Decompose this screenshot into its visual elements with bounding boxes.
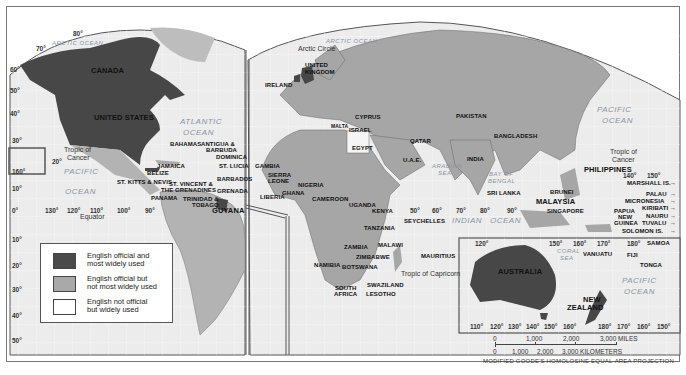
label-st-vincent-2: THE GRENADINES — [161, 187, 216, 193]
lon-110: 110° — [90, 207, 103, 214]
label-png-3: GUINEA — [614, 220, 638, 226]
label-brunei: BRUNEI — [550, 189, 574, 195]
inset-b-150: 150° — [544, 323, 557, 330]
tropic-cancer-east-label-2: Cancer — [612, 156, 635, 164]
pacific-west-label-2: OCEAN — [65, 187, 96, 196]
label-micronesia: MICRONESIA — [625, 198, 664, 204]
label-st-lucia: ST. LUCIA — [219, 163, 249, 169]
pacific-south-label-2: OCEAN — [624, 287, 655, 296]
lat-0: 0° — [12, 207, 18, 214]
label-egypt: EGYPT — [352, 145, 373, 151]
label-st-kitts: ST. KITTS & NEVIS — [117, 179, 172, 185]
lon-100: 100° — [117, 207, 130, 214]
label-uk-1: UNITED — [305, 62, 328, 68]
inset-b-160: 160° — [637, 323, 650, 330]
lon-90: 90° — [507, 207, 517, 214]
label-kenya: KENYA — [372, 208, 393, 214]
inset-b-110: 110° — [470, 323, 483, 330]
swatch-medium — [53, 276, 76, 292]
label-marshall: MARSHALL IS. — [627, 180, 671, 186]
label-fiji: FIJI — [627, 252, 638, 258]
label-ireland: IRELAND — [265, 82, 292, 88]
inset-lon-160: 160° — [573, 240, 586, 247]
label-india: INDIA — [467, 156, 484, 162]
map-legend: English official andmost widely used Eng… — [40, 243, 173, 323]
label-cameroon: CAMEROON — [312, 196, 348, 202]
lon-140: 140° — [623, 172, 636, 179]
lat-60: 60° — [10, 66, 20, 73]
scale-bar: 0 1,000 2,000 3,000 MILES 0 1,000 2,000 … — [490, 335, 680, 375]
label-guyana: GUYANA — [212, 208, 244, 214]
lon-50: 50° — [410, 207, 420, 214]
coral-sea-label-1: CORAL — [557, 248, 580, 254]
inset-b-180: 180° — [598, 323, 611, 330]
lat-s50: 50° — [12, 337, 22, 344]
arctic-ocean-east-label: ARCTIC OCEAN — [326, 38, 377, 44]
arrow-icon: → — [670, 191, 676, 197]
label-seychelles: SEYCHELLES — [404, 218, 445, 224]
lon-90: 90° — [145, 207, 155, 214]
inset-b-150: 150° — [657, 323, 670, 330]
indian-ocean-label-2: OCEAN — [490, 216, 521, 225]
lon-80: 80° — [480, 207, 490, 214]
lat-s10: 10° — [12, 236, 22, 243]
label-canada: CANADA — [91, 68, 124, 74]
label-malawi: MALAWI — [378, 242, 403, 248]
label-qatar: QATAR — [410, 138, 431, 144]
lat-s20: 20° — [12, 262, 22, 269]
tropic-cancer-east-label-1: Tropic of — [610, 148, 637, 156]
inset-b-170: 170° — [617, 323, 630, 330]
label-samoa: SAMOA — [647, 240, 670, 246]
arrow-icon: → — [670, 198, 676, 204]
label-grenada: GRENADA — [217, 188, 248, 194]
label-bahamas: BAHAMAS — [170, 141, 201, 147]
label-israel: ISRAEL — [349, 127, 372, 133]
label-jamaica: JAMAICA — [157, 163, 185, 169]
inset-lon-170: 170° — [597, 240, 610, 247]
tropic-cancer-west-label-2: Cancer — [67, 154, 90, 162]
projection-credit: MODIFIED GOODE'S HOMOLOSINE EQUAL-AREA P… — [483, 358, 674, 364]
label-cyprus: CYPRUS — [355, 114, 381, 120]
label-uk-2: KINGDOM — [305, 69, 335, 75]
label-vanuatu: VANUATU — [583, 251, 612, 257]
label-nigeria: NIGERIA — [298, 182, 324, 188]
label-belize: BELIZE — [147, 170, 169, 176]
label-usa: UNITED STATES — [94, 115, 154, 121]
tropic-cancer-west-label-1: Tropic of — [64, 146, 91, 154]
arrow-icon: → — [670, 220, 676, 226]
label-nauru: NAURU — [646, 213, 668, 219]
inset-lon-120: 120° — [475, 240, 488, 247]
lat-10: 10° — [12, 185, 22, 192]
label-namibia: NAMIBIA — [314, 262, 340, 268]
label-singapore: SINGAPORE — [547, 208, 584, 214]
label-palau: PALAU — [646, 191, 667, 197]
arctic-circle-label: Arctic Circle — [298, 45, 335, 53]
lat-s40: 40° — [12, 312, 22, 319]
inset-b-130: 130° — [508, 323, 521, 330]
label-antigua-2: BARBUDA — [206, 147, 237, 153]
label-barbados: BARBADOS — [217, 176, 252, 182]
swatch-dark — [53, 253, 76, 269]
label-uae: U.A.E. — [403, 157, 421, 163]
arctic-ocean-west-label: ARCTIC OCEAN — [52, 40, 103, 46]
inset-b-120: 120° — [490, 323, 503, 330]
lat-50: 50° — [10, 87, 20, 94]
arrow-icon: → — [670, 205, 676, 211]
label-zambia: ZAMBIA — [344, 244, 368, 250]
arabian-sea-label-2: SEA — [438, 170, 452, 176]
label-south-africa-2: AFRICA — [334, 291, 357, 297]
lon-70: 70° — [456, 207, 466, 214]
lat-s30: 30° — [12, 286, 22, 293]
label-bangladesh: BANGLADESH — [494, 133, 537, 139]
lat-40: 40° — [10, 110, 20, 117]
arrow-icon: → — [670, 180, 676, 186]
inset-lon-180: 180° — [627, 240, 640, 247]
label-lesotho: LESOTHO — [366, 291, 396, 297]
label-nz-2: ZEALAND — [567, 305, 604, 311]
bay-of-bengal-label-1: BAY OF — [489, 171, 513, 177]
pacific-west-label-1: PACIFIC — [64, 167, 98, 176]
lon-130: 130° — [45, 207, 58, 214]
coral-sea-label-2: SEA — [560, 255, 574, 261]
label-swaziland: SWAZILAND — [367, 282, 404, 288]
atlantic-ocean-label-1: ATLANTIC — [180, 117, 222, 126]
